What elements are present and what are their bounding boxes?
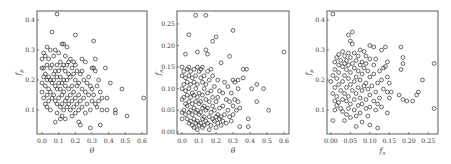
- data-point: [55, 102, 59, 106]
- data-point: [366, 69, 370, 73]
- data-point: [42, 75, 46, 79]
- x-tick-label: 0.3: [228, 137, 238, 144]
- data-point: [385, 75, 389, 79]
- data-point: [368, 44, 372, 48]
- x-tick-label: 0.6: [279, 137, 289, 144]
- data-point: [333, 108, 337, 112]
- data-point: [180, 65, 184, 69]
- data-point: [182, 82, 186, 86]
- data-point: [70, 114, 74, 118]
- x-axis-label: θ: [231, 146, 236, 155]
- data-point: [195, 82, 199, 86]
- data-point: [339, 59, 343, 63]
- data-point: [206, 52, 210, 56]
- data-point: [73, 111, 77, 115]
- x-axis-label: θ: [90, 146, 95, 155]
- data-point: [73, 78, 77, 82]
- data-point: [333, 86, 337, 90]
- y-tick-label: 0.05: [161, 106, 175, 113]
- data-point: [98, 123, 102, 127]
- x-axis-label: fn: [378, 146, 385, 156]
- data-point: [184, 113, 188, 117]
- data-point: [345, 86, 349, 90]
- data-point: [211, 74, 215, 78]
- data-point: [67, 87, 71, 91]
- data-point: [356, 54, 360, 58]
- data-point: [57, 51, 61, 55]
- data-point: [432, 107, 436, 111]
- data-point: [45, 63, 49, 67]
- data-point: [92, 39, 96, 43]
- data-point: [368, 93, 372, 97]
- x-tick-label: 0.5: [262, 137, 272, 144]
- data-point: [63, 117, 67, 121]
- data-point: [190, 113, 194, 117]
- data-point: [65, 105, 69, 109]
- x-tick-label: 0.6: [137, 137, 147, 144]
- data-point: [58, 60, 62, 64]
- data-point: [364, 98, 368, 102]
- data-point: [236, 100, 240, 104]
- x-tick-label: 0.2: [211, 137, 221, 144]
- data-point: [187, 33, 191, 37]
- data-point: [415, 93, 419, 97]
- data-point: [48, 108, 52, 112]
- data-point: [77, 108, 81, 112]
- x-tick-label: 0.1: [194, 137, 204, 144]
- data-point: [55, 63, 59, 67]
- y-tick-label: 0.00: [161, 128, 175, 135]
- data-point: [382, 87, 386, 91]
- data-point: [358, 96, 362, 100]
- data-point: [209, 123, 213, 127]
- data-point: [397, 93, 401, 97]
- y-tick-label: 0.3: [315, 46, 325, 53]
- data-point: [350, 42, 354, 46]
- data-point: [62, 108, 66, 112]
- data-point: [219, 61, 223, 65]
- data-point: [358, 63, 362, 67]
- data-point: [63, 84, 67, 88]
- data-point: [65, 45, 69, 49]
- scatter-panel-3: 0.000.050.100.150.200.250.10.20.30.4fnfp: [304, 11, 438, 156]
- x-tick-label: 0.25: [421, 137, 435, 144]
- data-point: [335, 95, 339, 99]
- data-point: [362, 84, 366, 88]
- data-point: [78, 72, 82, 76]
- data-point: [358, 111, 362, 115]
- data-point: [337, 83, 341, 87]
- data-point: [331, 74, 335, 78]
- data-point: [68, 75, 72, 79]
- data-point: [53, 48, 57, 52]
- data-point: [93, 69, 97, 73]
- data-point: [356, 86, 360, 90]
- data-point: [92, 93, 96, 97]
- data-point: [199, 76, 203, 80]
- data-point: [184, 76, 188, 80]
- data-point: [358, 78, 362, 82]
- x-tick-label: 0.20: [402, 137, 416, 144]
- data-point: [190, 102, 194, 106]
- data-point: [385, 90, 389, 94]
- data-point: [246, 125, 250, 129]
- data-point: [45, 45, 49, 49]
- x-tick-label: 0.5: [120, 137, 130, 144]
- data-point: [341, 80, 345, 84]
- data-point: [362, 50, 366, 54]
- data-point: [142, 96, 146, 100]
- data-point: [228, 54, 232, 58]
- data-point: [50, 81, 54, 85]
- data-point: [366, 87, 370, 91]
- data-point: [347, 107, 351, 111]
- data-point: [63, 69, 67, 73]
- data-point: [70, 66, 74, 70]
- data-point: [432, 62, 436, 66]
- data-point: [364, 62, 368, 66]
- data-point: [360, 102, 364, 106]
- data-point: [231, 29, 235, 33]
- data-point: [341, 110, 345, 114]
- data-point: [405, 99, 409, 103]
- data-point: [331, 92, 335, 96]
- data-point: [376, 81, 380, 85]
- data-point: [204, 82, 208, 86]
- data-point: [356, 104, 360, 108]
